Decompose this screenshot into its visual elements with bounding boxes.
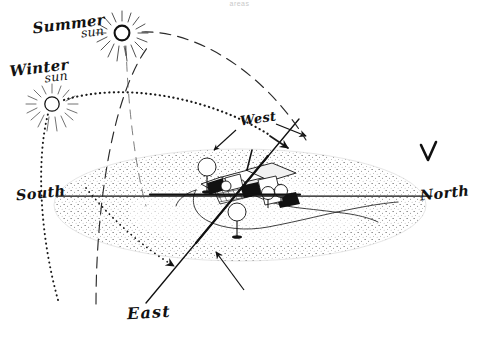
winter-sun-icon [26,84,78,131]
checkmark-icon [421,142,436,160]
tree-5 [221,181,231,191]
label-east: East [127,304,172,323]
diagram-canvas [0,0,479,342]
solar-path-diagram: areas [0,0,479,342]
